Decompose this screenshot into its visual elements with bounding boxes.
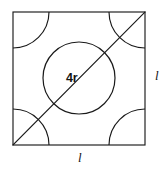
geometry-figure: 4r l l (0, 0, 166, 174)
label-side-bottom: l (78, 151, 82, 164)
corner-arc-top-left (13, 12, 49, 48)
label-diameter-4r: 4r (66, 72, 77, 85)
square-diagonal (13, 12, 145, 145)
geometry-canvas (0, 0, 166, 174)
corner-arc-bottom-right (109, 109, 145, 145)
label-side-right: l (155, 69, 159, 82)
